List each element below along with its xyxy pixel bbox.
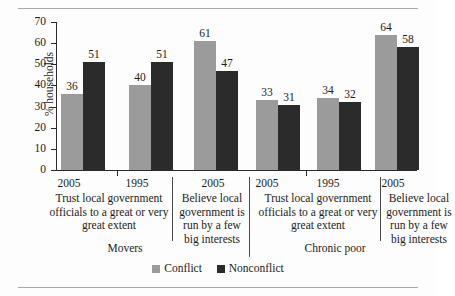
- bar-conflict-5[interactable]: [317, 98, 339, 170]
- legend-item-conflict[interactable]: Conflict: [152, 262, 202, 274]
- y-tick-label-30: 30: [20, 101, 46, 113]
- legend-item-nonconflict[interactable]: Nonconflict: [217, 262, 284, 274]
- cat-year-6: 2005: [368, 177, 418, 189]
- group-label-chronic-poor: Chronic poor: [285, 242, 385, 254]
- cat-desc-movers-believe: Believe local government is run by a few…: [176, 192, 248, 246]
- bar-nonconflict-5[interactable]: [339, 102, 361, 170]
- separator-3: [380, 177, 381, 241]
- bar-conflict-6[interactable]: [375, 35, 397, 170]
- bar-value-conflict-2: 40: [125, 72, 155, 84]
- group-label-movers: Movers: [80, 242, 170, 254]
- x-tick-chronic-mid: [306, 171, 307, 176]
- x-axis-line: [56, 170, 417, 171]
- top-rule: [18, 8, 418, 9]
- bar-nonconflict-4[interactable]: [278, 105, 300, 171]
- bar-nonconflict-3[interactable]: [216, 71, 238, 170]
- y-tick-label-50: 50: [20, 58, 46, 70]
- y-tick-label-20: 20: [20, 122, 46, 134]
- cat-desc-chronic-believe: Believe local government is run by a few…: [383, 192, 455, 246]
- legend: Conflict Nonconflict: [0, 262, 436, 274]
- plot-area: 36 51 40 51 61 47 33 31 34 32 64 58: [57, 22, 417, 170]
- separator-1: [172, 177, 173, 241]
- y-tick-label-40: 40: [20, 79, 46, 91]
- y-tick-label-0: 0: [20, 164, 46, 176]
- legend-label-nonconflict: Nonconflict: [229, 262, 284, 274]
- bottom-rule: [18, 287, 418, 288]
- cat-desc-chronic-trust: Trust local government officials to a gr…: [253, 192, 383, 233]
- bar-value-nonconflict-3: 47: [212, 58, 242, 70]
- bar-conflict-2[interactable]: [129, 85, 151, 170]
- y-tick-label-60: 60: [20, 37, 46, 49]
- y-tick-label-70: 70: [20, 16, 46, 28]
- bar-value-conflict-6: 64: [371, 22, 401, 34]
- bar-value-nonconflict-6: 58: [393, 34, 423, 46]
- bar-value-conflict-3: 61: [190, 28, 220, 40]
- bar-value-nonconflict-4: 31: [274, 92, 304, 104]
- legend-label-conflict: Conflict: [164, 262, 202, 274]
- cat-desc-movers-trust: Trust local government officials to a gr…: [48, 192, 170, 233]
- bar-value-nonconflict-2: 51: [147, 49, 177, 61]
- bar-nonconflict-1[interactable]: [83, 62, 105, 170]
- cat-year-1: 2005: [44, 177, 94, 189]
- bar-value-conflict-1: 36: [57, 81, 87, 93]
- bar-value-nonconflict-1: 51: [79, 49, 109, 61]
- bar-conflict-4[interactable]: [256, 100, 278, 170]
- legend-swatch-conflict-icon: [152, 265, 160, 273]
- cat-year-5: 1995: [303, 177, 353, 189]
- separator-2: [249, 177, 250, 257]
- legend-swatch-nonconflict-icon: [217, 265, 225, 273]
- cat-year-3: 2005: [188, 177, 238, 189]
- bar-value-nonconflict-5: 32: [335, 89, 365, 101]
- bar-nonconflict-6[interactable]: [397, 47, 419, 170]
- cat-year-2: 1995: [112, 177, 162, 189]
- y-tick-label-10: 10: [20, 143, 46, 155]
- y-tick-0: [51, 170, 57, 171]
- bar-conflict-1[interactable]: [61, 94, 83, 170]
- x-tick-movers-mid: [117, 171, 118, 176]
